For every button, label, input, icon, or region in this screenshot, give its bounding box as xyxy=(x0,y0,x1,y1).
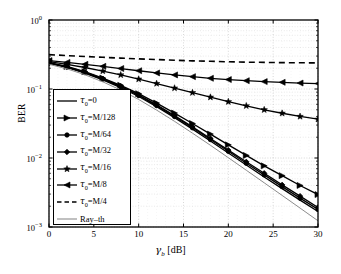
legend-label-tau_0=0: τ0=0 xyxy=(80,96,97,107)
x-axis-label-unit: [dB] xyxy=(167,244,185,255)
legend-item-tau_0=M/4[interactable]: τ0=M/4 xyxy=(54,194,130,211)
x-tick-30: 30 xyxy=(306,229,330,239)
legend[interactable]: τ0=0τ0=M/128τ0=M/64τ0=M/32τ0=M/16τ0=M/8τ… xyxy=(53,89,131,225)
x-tick-10: 10 xyxy=(127,229,151,239)
legend-item-tau_0=M/64[interactable]: τ0=M/64 xyxy=(54,127,130,144)
legend-symbol-tau_0=0 xyxy=(54,93,80,109)
y-tick-1: 10−1 xyxy=(16,83,42,95)
legend-item-tau_0=M/32[interactable]: τ0=M/32 xyxy=(54,143,130,160)
legend-symbol-tau_0=M/8 xyxy=(54,177,80,193)
legend-symbol-tau_0=M/16 xyxy=(54,161,80,177)
legend-item-tau_0=0[interactable]: τ0=0 xyxy=(54,93,130,110)
legend-item-tau_0=M/128[interactable]: τ0=M/128 xyxy=(54,110,130,127)
legend-label-tau_0=M/64: τ0=M/64 xyxy=(80,130,111,141)
legend-label-tau_0=M/4: τ0=M/4 xyxy=(80,197,107,208)
legend-item-tau_0=M/16[interactable]: τ0=M/16 xyxy=(54,160,130,177)
legend-label-tau_0=M/16: τ0=M/16 xyxy=(80,163,111,174)
legend-label-Ray-th: Ray–th xyxy=(80,215,105,224)
legend-symbol-tau_0=M/128 xyxy=(54,110,80,126)
x-axis-label-sub: b xyxy=(161,250,165,258)
x-tick-20: 20 xyxy=(216,229,240,239)
y-tick-0: 100 xyxy=(16,14,42,26)
figure-ber-vs-snr: BER γb [dB] 051015202530 10010−110−210−3… xyxy=(0,0,341,274)
x-tick-15: 15 xyxy=(172,229,196,239)
legend-symbol-Ray-th xyxy=(54,211,80,227)
legend-label-tau_0=M/128: τ0=M/128 xyxy=(80,113,115,124)
y-tick-2: 10−2 xyxy=(16,152,42,164)
legend-item-Ray-th[interactable]: Ray–th xyxy=(54,211,130,228)
legend-symbol-tau_0=M/32 xyxy=(54,144,80,160)
legend-symbol-tau_0=M/64 xyxy=(54,127,80,143)
y-tick-3: 10−3 xyxy=(16,221,42,233)
legend-label-tau_0=M/32: τ0=M/32 xyxy=(80,146,111,157)
x-axis-label: γb [dB] xyxy=(0,244,341,258)
legend-symbol-tau_0=M/4 xyxy=(54,194,80,210)
legend-item-tau_0=M/8[interactable]: τ0=M/8 xyxy=(54,177,130,194)
x-tick-5: 5 xyxy=(82,229,106,239)
legend-label-tau_0=M/8: τ0=M/8 xyxy=(80,180,107,191)
x-tick-25: 25 xyxy=(261,229,285,239)
